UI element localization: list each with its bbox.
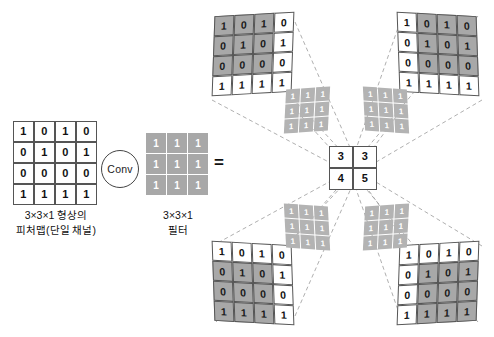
small-filter-cell: 1 xyxy=(315,86,330,101)
window-cell: 1 xyxy=(211,240,232,262)
window-cell: 1 xyxy=(456,300,477,322)
small-filter-cell: 1 xyxy=(285,104,300,119)
conv-operator-badge: Conv xyxy=(101,150,139,188)
small-filter-cell: 1 xyxy=(394,104,409,119)
small-filter-cell: 1 xyxy=(284,119,299,134)
window-cell: 0 xyxy=(417,52,438,74)
input-cell: 0 xyxy=(76,163,98,185)
window-cell: 1 xyxy=(253,12,274,34)
small-filter-cell: 1 xyxy=(378,87,393,102)
input-cell: 0 xyxy=(55,163,77,185)
input-cell: 1 xyxy=(55,184,77,206)
window-cell: 0 xyxy=(456,15,477,37)
filter-cell: 1 xyxy=(146,175,166,195)
window-cell: 0 xyxy=(231,241,252,263)
window-cell: 1 xyxy=(232,261,253,283)
window-cell: 1 xyxy=(436,301,457,323)
small-filter-cell: 1 xyxy=(379,118,394,133)
small-filter-cell: 1 xyxy=(394,218,409,233)
window-cell: 0 xyxy=(416,12,437,34)
filter-cell: 1 xyxy=(167,133,187,153)
equals-sign: = xyxy=(214,153,224,173)
window-cell: 0 xyxy=(252,282,273,304)
small-filter-cell: 1 xyxy=(394,203,409,218)
sliding-window-map-top-left: 1 0 1 0 0 1 0 1 0 0 0 0 1 1 1 1 xyxy=(212,12,295,97)
small-filter-top-right: 1 1 1 1 1 1 1 1 1 xyxy=(363,86,409,133)
small-filter-top-left: 1 1 1 1 1 1 1 1 1 xyxy=(284,86,330,133)
input-cell: 1 xyxy=(76,184,98,206)
filter-grid: 1 1 1 1 1 1 1 1 1 xyxy=(146,133,208,195)
window-cell: 0 xyxy=(437,281,458,303)
window-cell: 1 xyxy=(231,74,252,96)
input-cell: 0 xyxy=(13,142,35,164)
window-cell: 0 xyxy=(272,284,293,306)
window-cell: 1 xyxy=(438,241,459,263)
input-cell: 1 xyxy=(13,184,35,206)
sliding-window-map-bottom-left: 1 0 1 0 0 1 0 1 0 0 0 0 1 1 1 1 xyxy=(212,241,295,326)
window-cell: 1 xyxy=(418,72,439,94)
window-cell: 0 xyxy=(273,11,294,33)
small-filter-cell: 1 xyxy=(364,116,379,131)
window-cell: 1 xyxy=(416,303,437,325)
small-filter-cell: 1 xyxy=(379,102,394,117)
window-cell: 1 xyxy=(233,33,254,55)
small-filter-cell: 1 xyxy=(394,119,409,134)
filter-cell: 1 xyxy=(167,175,187,195)
small-filter-cell: 1 xyxy=(314,116,329,131)
caption-line-1: 3×3×1 형상의 xyxy=(25,209,88,221)
window-cell: 0 xyxy=(417,282,438,304)
filter-cell: 1 xyxy=(167,154,187,174)
small-filter-cell: 1 xyxy=(364,101,379,116)
filter-caption: 3×3×1 필터 xyxy=(141,208,215,238)
window-cell: 1 xyxy=(396,304,417,326)
window-cell: 0 xyxy=(212,55,233,77)
window-cell: 1 xyxy=(458,75,479,97)
output-cell: 3 xyxy=(353,146,378,169)
small-filter-cell: 1 xyxy=(378,235,393,250)
window-cell: 0 xyxy=(397,51,418,73)
window-cell: 0 xyxy=(253,32,274,54)
filter-cell: 1 xyxy=(188,154,208,174)
input-cell: 1 xyxy=(13,121,35,143)
small-filter-cell: 1 xyxy=(285,218,300,233)
input-feature-map-caption: 3×3×1 형상의 피처맵(단일 채널) xyxy=(4,208,108,238)
input-cell: 0 xyxy=(55,142,77,164)
caption-line-2: 피처맵(단일 채널) xyxy=(4,223,108,238)
window-cell: 0 xyxy=(457,280,478,302)
small-filter-cell: 1 xyxy=(300,235,315,250)
small-filter-cell: 1 xyxy=(379,204,394,219)
small-filter-cell: 1 xyxy=(363,236,378,251)
small-filter-cell: 1 xyxy=(315,236,330,251)
filter-cell: 1 xyxy=(188,175,208,195)
window-cell: 0 xyxy=(437,33,458,55)
small-filter-cell: 1 xyxy=(299,204,314,219)
window-cell: 0 xyxy=(213,35,234,57)
window-cell: 0 xyxy=(397,31,418,53)
small-filter-bottom-left: 1 1 1 1 1 1 1 1 1 xyxy=(284,203,330,250)
output-cell: 4 xyxy=(329,168,354,191)
window-cell: 1 xyxy=(438,74,459,96)
window-cell: 0 xyxy=(232,53,253,75)
window-cell: 0 xyxy=(438,261,459,283)
small-filter-cell: 1 xyxy=(300,219,315,234)
window-cell: 1 xyxy=(273,304,294,326)
window-cell: 1 xyxy=(418,262,439,284)
window-cell: 0 xyxy=(252,262,273,284)
filter-cell: 1 xyxy=(146,154,166,174)
small-filter-bottom-right: 1 1 1 1 1 1 1 1 1 xyxy=(363,203,409,250)
window-cell: 1 xyxy=(272,264,293,286)
small-filter-cell: 1 xyxy=(364,205,379,220)
window-cell: 1 xyxy=(436,13,457,35)
window-cell: 1 xyxy=(273,31,294,53)
small-filter-cell: 1 xyxy=(363,86,378,101)
window-cell: 0 xyxy=(418,242,439,264)
small-filter-cell: 1 xyxy=(315,221,330,236)
small-filter-cell: 1 xyxy=(364,221,379,236)
window-cell: 0 xyxy=(232,281,253,303)
input-cell: 0 xyxy=(13,163,35,185)
input-feature-map-grid: 1 0 1 0 0 1 0 1 0 0 0 0 1 1 1 1 xyxy=(13,121,97,205)
window-cell: 1 xyxy=(253,303,274,325)
filter-cell: 1 xyxy=(188,133,208,153)
input-cell: 1 xyxy=(76,142,98,164)
output-cell: 5 xyxy=(353,168,378,191)
